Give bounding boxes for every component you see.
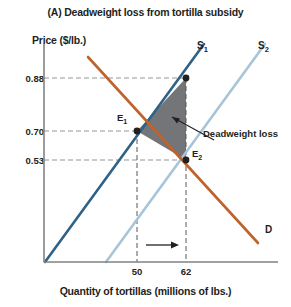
chart-figure: (A) Deadweight loss from tortilla subsid… — [0, 0, 291, 307]
curve-label-s2-sub: 2 — [265, 45, 269, 54]
point-label-e1-sub: 1 — [123, 118, 127, 125]
point-e1 — [134, 128, 141, 135]
point-upper-supply — [183, 75, 190, 82]
point-label-e2: E2 — [192, 148, 202, 161]
x-tick-50: 50 — [132, 266, 143, 277]
curve-label-d: D — [265, 224, 272, 235]
x-tick-62: 62 — [181, 266, 192, 277]
curve-label-d-text: D — [265, 224, 272, 235]
point-label-e1: E1 — [117, 112, 127, 125]
curve-label-s1-sub: 1 — [204, 45, 208, 54]
curve-label-s1: S1 — [197, 40, 208, 54]
curve-label-s1-text: S — [197, 40, 204, 51]
quantity-increase-arrowhead — [171, 242, 179, 249]
curve-label-s2: S2 — [258, 40, 269, 54]
point-e2 — [183, 157, 190, 164]
curve-label-s2-text: S — [258, 40, 265, 51]
plot-area — [0, 0, 291, 307]
deadweight-loss-annotation: Deadweight loss — [203, 128, 278, 139]
x-axis-label: Quantity of tortillas (millions of lbs.) — [0, 285, 291, 297]
point-label-e2-sub: 2 — [198, 154, 202, 161]
